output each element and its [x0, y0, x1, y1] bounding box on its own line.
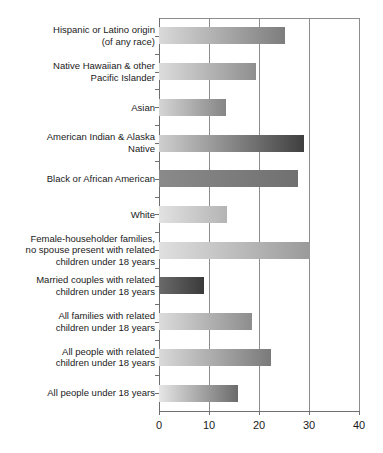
- category-label: American Indian & AlaskaNative: [3, 125, 155, 161]
- category-boundary-tick: [155, 375, 159, 376]
- category-label-line: children under 18 years: [56, 357, 155, 369]
- category-boundary-tick: [155, 232, 159, 233]
- bar: [159, 242, 310, 259]
- bar: [159, 170, 298, 187]
- bar-chart: Hispanic or Latino origin(of any race)Na…: [0, 0, 383, 453]
- category-label: Hispanic or Latino origin(of any race): [3, 18, 155, 54]
- category-label: All families with relatedchildren under …: [3, 304, 155, 340]
- category-label: All people under 18 years: [3, 375, 155, 411]
- category-label-line: Asian: [131, 102, 155, 114]
- bar: [159, 63, 256, 80]
- category-label-line: White: [131, 209, 155, 221]
- bar: [159, 27, 285, 44]
- category-label-line: Hispanic or Latino origin: [53, 24, 155, 36]
- category-boundary-tick: [155, 197, 159, 198]
- bar-row: Native Hawaiian & otherPacific Islander: [0, 54, 383, 90]
- category-label-line: children under 18 years: [56, 286, 155, 298]
- bar: [159, 135, 304, 152]
- bar: [159, 206, 227, 223]
- category-label-line: children under 18 years: [56, 256, 155, 268]
- bar-row: Married couples with relatedchildren und…: [0, 268, 383, 304]
- bar-row: All people under 18 years: [0, 375, 383, 411]
- category-label: Female-householder families,no spouse pr…: [3, 232, 155, 268]
- category-boundary-tick: [155, 304, 159, 305]
- x-tick-20: [259, 411, 260, 415]
- bar-row: All families with relatedchildren under …: [0, 304, 383, 340]
- category-label-line: Black or African American: [47, 173, 155, 185]
- category-label-line: All people with related: [62, 346, 155, 358]
- category-label-line: Native: [128, 143, 155, 155]
- category-boundary-tick: [155, 340, 159, 341]
- category-label-line: (of any race): [102, 36, 155, 48]
- bar-row: White: [0, 197, 383, 233]
- category-boundary-tick: [155, 54, 159, 55]
- bar: [159, 277, 204, 294]
- category-label-line: All people under 18 years: [47, 387, 155, 399]
- category-label-line: American Indian & Alaska: [47, 131, 155, 143]
- category-boundary-tick: [155, 89, 159, 90]
- category-label: Married couples with relatedchildren und…: [3, 268, 155, 304]
- bar-row: Black or African American: [0, 161, 383, 197]
- x-tick-0: [159, 411, 160, 415]
- x-tick-40: [359, 411, 360, 415]
- x-tick-label-10: 10: [189, 419, 229, 431]
- category-boundary-tick: [155, 125, 159, 126]
- category-label: Black or African American: [3, 161, 155, 197]
- bar-row: Female-householder families,no spouse pr…: [0, 232, 383, 268]
- category-label: Asian: [3, 89, 155, 125]
- x-tick-30: [309, 411, 310, 415]
- category-label-line: All families with related: [58, 310, 155, 322]
- category-label-line: Married couples with related: [36, 274, 155, 286]
- bar-row: Hispanic or Latino origin(of any race): [0, 18, 383, 54]
- bar-row: All people with relatedchildren under 18…: [0, 340, 383, 376]
- bar: [159, 99, 226, 116]
- x-tick-10: [209, 411, 210, 415]
- category-label-line: Female-householder families,: [30, 233, 155, 245]
- x-tick-label-30: 30: [289, 419, 329, 431]
- bar: [159, 313, 252, 330]
- category-label: White: [3, 197, 155, 233]
- category-label-line: children under 18 years: [56, 322, 155, 334]
- category-label: Native Hawaiian & otherPacific Islander: [3, 54, 155, 90]
- bar: [159, 349, 271, 366]
- bar: [159, 385, 238, 402]
- category-label: All people with relatedchildren under 18…: [3, 340, 155, 376]
- category-label-line: Native Hawaiian & other: [53, 60, 155, 72]
- category-boundary-tick: [155, 268, 159, 269]
- x-tick-label-40: 40: [339, 419, 379, 431]
- category-boundary-tick: [155, 161, 159, 162]
- bar-row: Asian: [0, 89, 383, 125]
- x-tick-label-0: 0: [139, 419, 179, 431]
- category-label-line: Pacific Islander: [91, 72, 155, 84]
- category-label-line: no spouse present with related: [26, 244, 155, 256]
- x-tick-label-20: 20: [239, 419, 279, 431]
- bar-row: American Indian & AlaskaNative: [0, 125, 383, 161]
